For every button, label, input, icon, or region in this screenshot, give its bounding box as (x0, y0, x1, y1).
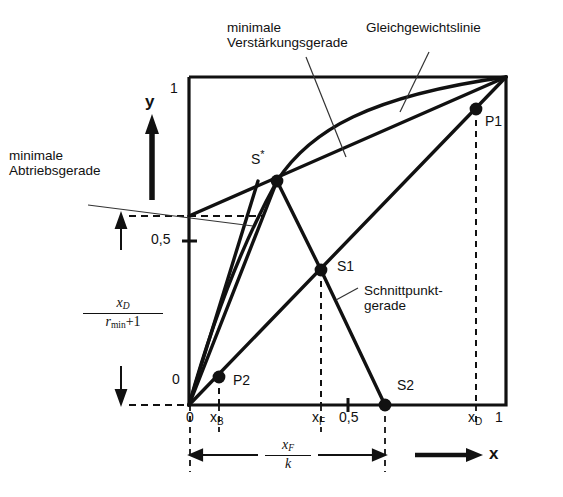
leader-lines (88, 52, 429, 300)
annotation-equilibrium: Gleichgewichtslinie (366, 20, 481, 35)
point-s-star[interactable] (271, 175, 284, 188)
x-tick-label-xb-base: x (210, 409, 217, 425)
point-label-p1: P1 (485, 113, 502, 129)
construction-lines (129, 109, 476, 405)
x-tick-label-xf: xF (312, 409, 325, 427)
x-tick-label-xd-base: x (468, 409, 475, 425)
y-tick-label-1: 1 (170, 80, 178, 96)
point-label-s2: S2 (397, 377, 414, 393)
annotation-intersection-line2: gerade (364, 298, 406, 313)
x-span-fraction-numerator: xF (265, 438, 311, 455)
annotation-min-rectifying-line2: Verstärkungsgerade (227, 35, 348, 50)
minimal-rectifying-line (189, 77, 506, 216)
y-intercept-den-sub: min (111, 320, 126, 330)
x-axis-label: x (489, 444, 498, 464)
leader-intersection (336, 288, 358, 300)
x-tick-label-xb-sub: B (217, 416, 224, 427)
annotation-min-stripping-line1: minimale (9, 148, 63, 163)
y-axis-label: y (145, 92, 154, 112)
y-axis-arrow (145, 114, 159, 200)
x-tick-label-xf-base: x (312, 409, 319, 425)
y-intercept-fraction: xD rmin+1 (83, 296, 163, 331)
x-tick-label-1: 1 (495, 409, 503, 425)
x-span-fraction: xF k (265, 438, 311, 472)
y-intercept-num-sub: D (123, 301, 130, 311)
y-tick-label-0: 0 (172, 371, 180, 387)
point-label-s-star: S* (251, 148, 265, 167)
point-label-s1: S1 (337, 258, 354, 274)
x-tick-label-xd: xD (468, 409, 482, 427)
x-tick-label-05: 0,5 (339, 409, 358, 425)
x-span-fraction-denominator: k (265, 455, 311, 472)
point-p2[interactable] (213, 371, 226, 384)
point-label-p2: P2 (233, 372, 250, 388)
point-label-s-star-text: S (251, 151, 260, 167)
x-tick-label-0: 0 (186, 409, 194, 425)
y-tick-label-05: 0,5 (151, 231, 170, 247)
x-span-num-sub: F (288, 443, 294, 453)
y-intercept-den-tail: +1 (126, 314, 141, 329)
y-intercept-fraction-denominator: rmin+1 (83, 313, 163, 331)
diagonal-line (189, 77, 506, 405)
annotation-intersection-line1: Schnittpunkt- (364, 283, 443, 298)
x-axis-arrow (415, 448, 483, 462)
dimension-extension-lines (190, 405, 476, 472)
annotation-min-rectifying-line1: minimale (227, 20, 281, 35)
y-intercept-fraction-numerator: xD (83, 296, 163, 313)
annotation-min-stripping-line2: Abtriebsgerade (9, 163, 101, 178)
x-tick-label-xb: xB (210, 409, 224, 427)
annotation-min-stripping: minimale Abtriebsgerade (9, 148, 101, 178)
point-s2[interactable] (379, 399, 392, 412)
annotation-intersection-line: Schnittpunkt- gerade (364, 283, 443, 313)
x-tick-label-xd-sub: D (475, 416, 482, 427)
x-tick-label-xf-sub: F (319, 416, 325, 427)
point-s1[interactable] (315, 264, 328, 277)
annotation-min-rectifying: minimale Verstärkungsgerade (227, 20, 348, 50)
leader-equilibrium (400, 52, 429, 112)
point-p1[interactable] (470, 103, 483, 116)
point-label-s-star-superscript: * (260, 148, 264, 160)
